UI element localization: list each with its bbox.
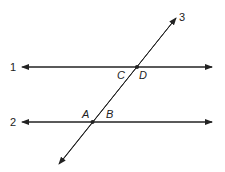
intersection-point-bottom	[91, 120, 95, 124]
angle-a-label: A	[81, 108, 89, 120]
angle-b-label: B	[106, 108, 113, 120]
line-2-label: 2	[10, 116, 16, 128]
diagram-svg: 1 2 3 C D A B	[0, 0, 225, 172]
angle-c-label: C	[117, 69, 125, 81]
parallel-lines-diagram: 1 2 3 C D A B	[0, 0, 225, 172]
line-3-label: 3	[179, 11, 185, 23]
angle-d-label: D	[139, 69, 147, 81]
transversal-line-3	[59, 18, 176, 164]
line-1-label: 1	[10, 61, 16, 73]
